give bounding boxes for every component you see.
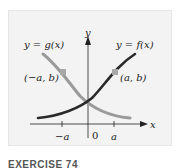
point-right-label: (a, b) <box>120 72 147 83</box>
point-a-b-marker <box>112 69 118 75</box>
f-curve-label: y = f(x) <box>115 39 154 50</box>
function-reflection-diagram: y = g(x) y = f(x) (−a, b) (a, b) y x −a … <box>0 0 179 168</box>
origin-label: 0 <box>92 130 98 141</box>
g-curve-label: y = g(x) <box>23 39 64 50</box>
tick-a-label: a <box>111 131 117 142</box>
point-left-label: (−a, b) <box>24 72 59 83</box>
y-axis-label: y <box>84 27 91 38</box>
figure-caption: EXERCISE 74 <box>8 159 78 168</box>
x-axis-arrow-icon <box>140 121 148 127</box>
g-curve <box>43 54 130 118</box>
point-neg-a-b-marker <box>60 69 66 75</box>
tick-neg-a-label: −a <box>55 131 69 142</box>
x-axis-label: x <box>150 119 156 130</box>
